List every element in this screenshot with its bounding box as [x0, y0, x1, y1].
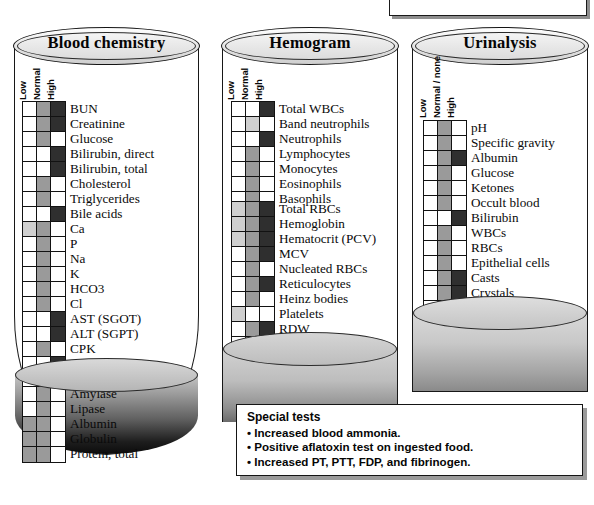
- table-row: [424, 166, 466, 181]
- row-label: MCV: [279, 246, 376, 261]
- grid-cell-high: [51, 132, 65, 146]
- grid-cell-low: [232, 147, 246, 161]
- table-row: [424, 241, 466, 256]
- table-row: [23, 327, 65, 342]
- lab-profile-figure: Blood chemistry Low Normal High BUNCreat…: [0, 0, 594, 505]
- grid-cell-normal: [438, 181, 452, 195]
- grid-cell-low: [23, 147, 37, 161]
- grid-cell-normal: [438, 166, 452, 180]
- table-row: [424, 211, 466, 226]
- grid-cell-high: [51, 147, 65, 161]
- grid-cell-high: [51, 162, 65, 176]
- grid-cell-normal: [37, 447, 51, 462]
- grid-cell-normal: [438, 151, 452, 165]
- grid-cell-low: [424, 121, 438, 135]
- grid-cell-normal: [438, 286, 452, 300]
- grid-cell-normal: [438, 241, 452, 255]
- grid-cell-high: [51, 102, 65, 116]
- row-label: Globulin: [70, 431, 183, 446]
- header-high-blood-chemistry: High: [45, 79, 56, 100]
- table-row: [232, 177, 274, 192]
- table-row: [23, 312, 65, 327]
- table-row: [232, 247, 274, 262]
- row-label: Hematocrit (PCV): [279, 231, 376, 246]
- grid-cell-low: [232, 292, 246, 306]
- grid-cell-low: [424, 286, 438, 300]
- table-row: [23, 402, 65, 417]
- cutoff-box-top-right: [389, 0, 587, 16]
- grid-cell-high: [260, 292, 274, 306]
- table-row: [23, 342, 65, 357]
- table-row: [232, 217, 274, 232]
- row-label: Specific gravity: [471, 135, 555, 150]
- grid-cell-normal: [37, 282, 51, 296]
- table-row: [23, 447, 65, 462]
- row-label: Glucose: [70, 131, 183, 146]
- row-label: Triglycerides: [70, 191, 183, 206]
- grid-cell-low: [23, 267, 37, 281]
- grid-cell-high: [260, 232, 274, 246]
- header-high-hemogram: High: [253, 79, 264, 100]
- grid-cell-high: [260, 117, 274, 131]
- grid-cell-low: [23, 312, 37, 326]
- grid-cell-low: [424, 256, 438, 270]
- table-row: [23, 177, 65, 192]
- table-row: [23, 252, 65, 267]
- table-row: [232, 117, 274, 132]
- grid-cell-normal: [37, 387, 51, 401]
- grid-cell-normal: [37, 417, 51, 431]
- table-row: [23, 192, 65, 207]
- row-label: BUN: [70, 101, 183, 116]
- grid-cell-low: [23, 432, 37, 446]
- table-row: [23, 117, 65, 132]
- grid-cell-high: [51, 192, 65, 206]
- grid-cell-normal: [246, 202, 260, 216]
- row-label: CPK: [70, 341, 183, 356]
- labels-urinalysis: pHSpecific gravityAlbuminGlucoseKetonesO…: [471, 120, 555, 315]
- grid-cell-low: [232, 232, 246, 246]
- grid-cell-low: [424, 181, 438, 195]
- grid-cell-low: [232, 117, 246, 131]
- grid-cell-low: [23, 162, 37, 176]
- row-label: K: [70, 266, 183, 281]
- header-low-hemogram: Low: [225, 81, 236, 100]
- grid-cell-normal: [37, 252, 51, 266]
- grid-cell-low: [23, 192, 37, 206]
- grid-cell-high: [260, 102, 274, 116]
- grid-cell-high: [51, 282, 65, 296]
- grid-cell-low: [23, 327, 37, 341]
- special-tests-item-2: • Positive aflatoxin test on ingested fo…: [247, 440, 582, 453]
- row-label: Total RBCs: [279, 201, 376, 216]
- row-label: Albumin: [471, 150, 555, 165]
- grid-cell-low: [23, 342, 37, 356]
- grid-cell-normal: [246, 117, 260, 131]
- table-row: [424, 226, 466, 241]
- header-low-urinalysis: Low: [417, 99, 428, 118]
- grid-cell-low: [232, 262, 246, 276]
- table-row: [232, 232, 274, 247]
- grid-cell-high: [51, 432, 65, 446]
- row-label: Ca: [70, 221, 183, 236]
- grid-cell-low: [23, 297, 37, 311]
- grid-urinalysis: [423, 120, 467, 317]
- grid-cell-low: [424, 166, 438, 180]
- column-headers-hemogram: Low Normal High: [232, 60, 292, 100]
- grid-cell-normal: [37, 177, 51, 191]
- grid-cell-low: [23, 447, 37, 462]
- grid-cell-normal: [438, 226, 452, 240]
- row-label: Cl: [70, 296, 183, 311]
- grid-cell-high: [51, 252, 65, 266]
- table-row: [23, 417, 65, 432]
- grid-cell-low: [232, 177, 246, 191]
- grid-cell-normal: [246, 322, 260, 336]
- grid-cell-normal: [37, 297, 51, 311]
- grid-cell-high: [51, 342, 65, 356]
- grid-cell-high: [51, 177, 65, 191]
- grid-cell-normal: [246, 307, 260, 321]
- row-label: Albumin: [70, 416, 183, 431]
- grid-cell-high: [452, 271, 466, 285]
- panel-title-hemogram: Hemogram: [222, 33, 398, 53]
- special-tests-box: Special tests • Increased blood ammonia.…: [236, 404, 583, 476]
- grid-cell-normal: [246, 147, 260, 161]
- grid-cell-low: [232, 132, 246, 146]
